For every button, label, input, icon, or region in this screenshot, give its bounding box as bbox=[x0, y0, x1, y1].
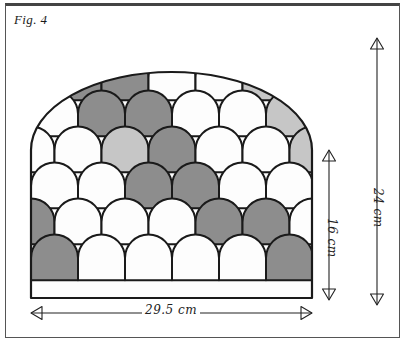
scallop-scale bbox=[290, 55, 337, 101]
scallop-scale bbox=[172, 235, 219, 281]
scallop-scale bbox=[266, 235, 313, 281]
scallop-scale bbox=[0, 235, 31, 281]
dimension-label-29-5cm: 29.5 cm bbox=[142, 303, 200, 317]
scallop-scale bbox=[313, 91, 360, 137]
dimension-label-16cm: 16 cm bbox=[325, 218, 338, 258]
dimension-label-24cm: 24 cm bbox=[371, 188, 384, 228]
scallop-scale bbox=[31, 235, 78, 281]
scallop-scale bbox=[0, 162, 31, 208]
scallop-drawing bbox=[0, 0, 409, 342]
scallop-scale bbox=[313, 162, 360, 208]
figure-canvas: Fig. 4 16 cm 24 cm 29.5 cm bbox=[0, 0, 409, 342]
scallop-scale bbox=[219, 235, 266, 281]
scallop-scale bbox=[0, 91, 31, 137]
scallop-scale bbox=[78, 235, 125, 281]
scallop-scale bbox=[125, 235, 172, 281]
scallop-scale bbox=[8, 55, 55, 101]
